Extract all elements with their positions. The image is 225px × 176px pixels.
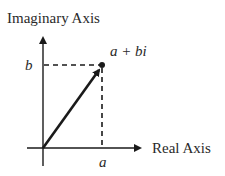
vector-arrow [43, 70, 99, 148]
real-axis-label: Real Axis [152, 140, 211, 156]
point-label: a + bi [110, 43, 147, 59]
point-a-plus-bi [99, 62, 105, 68]
y-tick-label: b [25, 57, 33, 73]
imaginary-axis-label: Imaginary Axis [7, 10, 100, 26]
complex-plane-diagram: Imaginary Axis a + bi b a Real Axis [0, 0, 225, 176]
x-tick-label: a [99, 154, 107, 170]
